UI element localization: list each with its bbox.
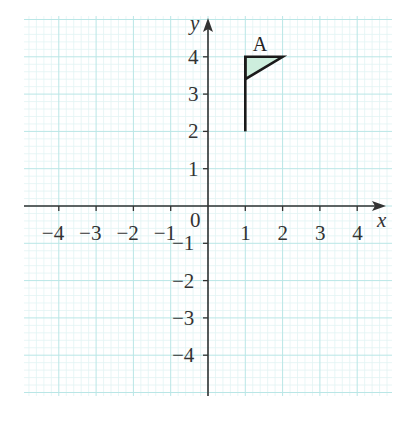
y-tick-label: 2: [188, 119, 199, 143]
y-tick-label: 3: [188, 82, 199, 106]
x-tick-label: −4: [42, 221, 65, 245]
x-tick-label: 2: [278, 221, 289, 245]
y-tick-label: −1: [172, 231, 194, 255]
coordinate-grid-figure: xy0−4−3−2−112344321−1−2−3−4 A: [0, 0, 417, 423]
y-tick-label: −4: [172, 343, 195, 367]
y-tick-label: −2: [172, 269, 194, 293]
x-tick-label: 3: [315, 221, 326, 245]
x-axis-label: x: [376, 208, 387, 232]
coordinate-plane: xy0−4−3−2−112344321−1−2−3−4 A: [0, 0, 417, 423]
y-tick-label: 4: [188, 45, 199, 69]
origin-label: 0: [190, 208, 201, 232]
x-tick-label: −2: [116, 221, 138, 245]
y-tick-label: −3: [172, 306, 194, 330]
y-axis-label: y: [188, 11, 200, 35]
x-tick-label: 1: [240, 221, 251, 245]
shape-label-a: A: [253, 33, 268, 55]
x-tick-label: 4: [352, 221, 363, 245]
y-tick-label: 1: [188, 157, 199, 181]
x-tick-label: −3: [79, 221, 101, 245]
